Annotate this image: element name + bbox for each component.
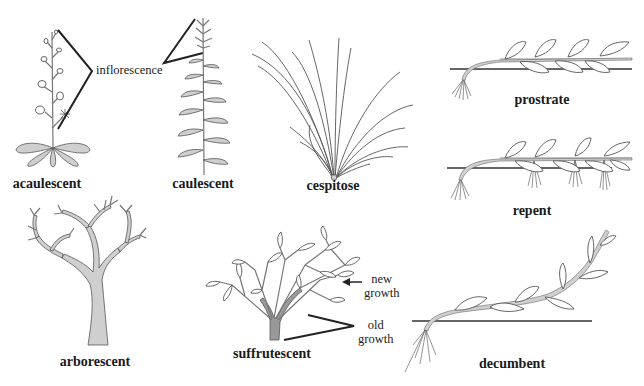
new-growth-line1: new xyxy=(364,272,399,286)
annotation-old-growth: old growth xyxy=(358,318,393,346)
annotation-inflorescence: inflorescence xyxy=(96,63,163,77)
old-growth-line1: old xyxy=(358,318,393,332)
label-suffrutescent: suffrutescent xyxy=(233,346,311,362)
label-repent: repent xyxy=(513,203,552,219)
growth-pointer-lines xyxy=(284,278,362,340)
label-decumbent: decumbent xyxy=(479,356,545,372)
annotation-new-growth: new growth xyxy=(364,272,399,300)
label-caulescent: caulescent xyxy=(172,176,233,192)
old-growth-line2: growth xyxy=(358,332,393,346)
cespitose-drawing xyxy=(252,38,413,180)
label-acaulescent: acaulescent xyxy=(13,176,81,192)
prostrate-drawing xyxy=(450,40,632,100)
arborescent-drawing xyxy=(28,196,146,345)
caulescent-drawing xyxy=(178,18,230,175)
label-prostrate: prostrate xyxy=(515,92,570,108)
repent-drawing xyxy=(447,138,632,200)
label-arborescent: arborescent xyxy=(60,354,131,370)
new-growth-line2: growth xyxy=(364,286,399,300)
decumbent-drawing xyxy=(405,230,616,372)
acaulescent-drawing xyxy=(16,30,90,167)
label-cespitose: cespitose xyxy=(307,178,360,194)
